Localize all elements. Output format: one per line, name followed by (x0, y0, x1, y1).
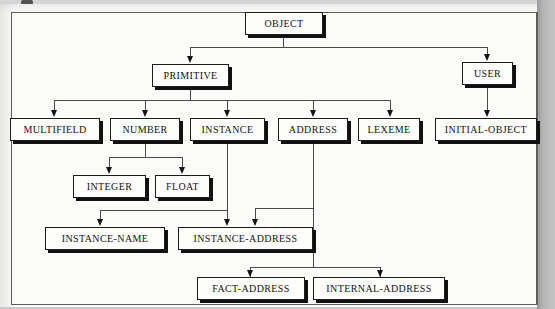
node-primitive[interactable]: PRIMITIVE (152, 64, 229, 87)
node-float-label: FLOAT (166, 181, 199, 192)
node-fact-address-label: FACT-ADDRESS (212, 283, 290, 294)
arrow-primitive-to-lexeme (387, 110, 393, 117)
arrow-object-to-primitive (187, 56, 193, 63)
connector-number-bus (109, 157, 182, 158)
node-address[interactable]: ADDRESS (278, 118, 348, 141)
node-multifield-label: MULTIFIELD (23, 124, 86, 135)
connector-instance-stem (227, 141, 228, 211)
node-float[interactable]: FLOAT (155, 175, 210, 198)
arrow-instance-to-instance-address (224, 219, 230, 226)
node-lexeme-label: LEXEME (368, 124, 411, 135)
connector-address-to-instance-address-bus (255, 208, 314, 209)
connector-primitive-stem (190, 87, 191, 100)
arrow-user-to-initial-object (484, 110, 490, 117)
node-instance-name-label: INSTANCE-NAME (62, 233, 149, 244)
node-instance-name[interactable]: INSTANCE-NAME (45, 227, 165, 250)
arrow-address-to-internal-address (377, 270, 383, 277)
connector-object-bus (190, 47, 488, 48)
node-object-label: OBJECT (264, 18, 303, 29)
node-integer[interactable]: INTEGER (73, 175, 146, 198)
node-initial-object-label: INITIAL-OBJECT (445, 124, 527, 135)
connector-primitive-bus (54, 100, 390, 101)
node-integer-label: INTEGER (87, 181, 133, 192)
node-address-label: ADDRESS (289, 124, 337, 135)
node-multifield[interactable]: MULTIFIELD (10, 118, 100, 141)
arrow-object-to-user (484, 54, 490, 61)
arrow-primitive-to-address (310, 110, 316, 117)
node-number-label: NUMBER (122, 124, 167, 135)
arrow-number-to-integer (106, 167, 112, 174)
node-instance-label: INSTANCE (202, 124, 254, 135)
connector-address-bottom-bus (250, 267, 380, 268)
arrow-primitive-to-number (142, 110, 148, 117)
node-lexeme[interactable]: LEXEME (358, 118, 420, 141)
node-initial-object[interactable]: INITIAL-OBJECT (435, 118, 537, 141)
connector-instance-bus (100, 210, 228, 211)
figure-border (11, 12, 538, 305)
page-gutter (537, 0, 555, 309)
node-internal-address-label: INTERNAL-ADDRESS (326, 283, 431, 294)
figure-page: OBJECT PRIMITIVE USER MULTIFIELD NUMBER … (0, 0, 555, 309)
connector-number-stem (145, 141, 146, 157)
node-number[interactable]: NUMBER (110, 118, 180, 141)
connector-user-to-initial-object (487, 85, 488, 111)
node-fact-address[interactable]: FACT-ADDRESS (197, 277, 305, 300)
node-object[interactable]: OBJECT (245, 12, 323, 35)
arrow-primitive-to-instance (224, 110, 230, 117)
arrow-number-to-float (179, 167, 185, 174)
arrow-address-to-fact-address (247, 270, 253, 277)
node-user[interactable]: USER (462, 62, 513, 85)
connector-address-stem (313, 141, 314, 267)
arrow-instance-to-instance-name (97, 219, 103, 226)
node-instance[interactable]: INSTANCE (190, 118, 265, 141)
arrow-address-to-instance-address (252, 219, 258, 226)
arrow-primitive-to-multifield (51, 110, 57, 117)
node-primitive-label: PRIMITIVE (163, 70, 217, 81)
node-user-label: USER (474, 68, 501, 79)
node-instance-address[interactable]: INSTANCE-ADDRESS (178, 227, 313, 250)
node-internal-address[interactable]: INTERNAL-ADDRESS (313, 277, 445, 300)
node-instance-address-label: INSTANCE-ADDRESS (194, 233, 298, 244)
